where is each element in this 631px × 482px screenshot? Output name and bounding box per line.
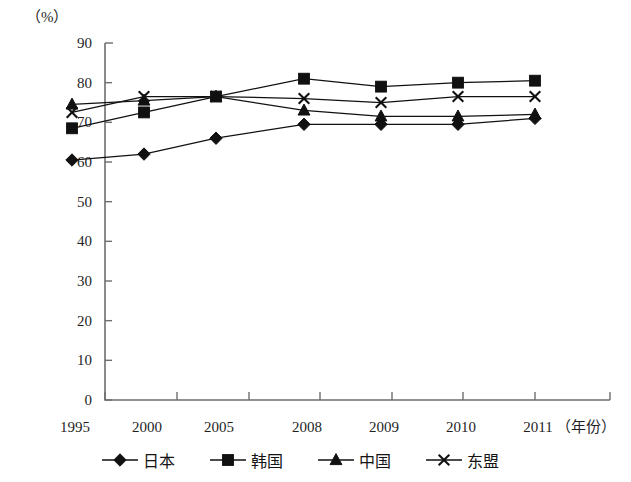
series-2 xyxy=(66,90,541,121)
y-axis-unit-label: （%） xyxy=(26,9,69,25)
legend-item-0[interactable]: 日本 xyxy=(102,453,175,470)
legend-label: 中国 xyxy=(359,453,391,470)
x-tick-label: 2011 xyxy=(523,419,552,435)
line-chart: 0102030405060708090 19952000200520082009… xyxy=(0,0,631,482)
y-tick-label: 60 xyxy=(77,154,92,170)
y-tick-label: 50 xyxy=(77,194,92,210)
series-0 xyxy=(66,112,541,166)
x-tick-group: 1995200020052008200920102011 xyxy=(60,392,553,435)
marker-square xyxy=(453,77,464,88)
series-group xyxy=(66,73,541,166)
chart-page: 0102030405060708090 19952000200520082009… xyxy=(0,0,631,482)
legend-label: 东盟 xyxy=(467,453,499,470)
x-axis-caption: （年份） xyxy=(556,419,616,435)
x-tick-label: 2009 xyxy=(369,419,399,435)
marker-square xyxy=(299,73,310,84)
y-tick-label: 70 xyxy=(77,114,92,130)
x-tick-label: 2000 xyxy=(132,419,162,435)
marker-triangle xyxy=(452,110,464,121)
x-tick-label: 2010 xyxy=(446,419,476,435)
legend-item-3[interactable]: 东盟 xyxy=(426,453,499,470)
marker-diamond xyxy=(298,118,310,130)
marker-square xyxy=(223,455,234,466)
legend-item-2[interactable]: 中国 xyxy=(318,453,391,470)
legend-label: 韩国 xyxy=(251,453,283,470)
y-tick-label: 20 xyxy=(77,313,92,329)
y-tick-label: 80 xyxy=(77,75,92,91)
marker-square xyxy=(67,123,78,134)
axis-label-group: （%）（年份） xyxy=(26,9,616,435)
x-tick-label: 2008 xyxy=(292,419,322,435)
marker-triangle xyxy=(330,454,342,465)
marker-square xyxy=(139,107,150,118)
marker-square xyxy=(376,81,387,92)
marker-diamond xyxy=(210,132,222,144)
chart-legend: 日本韩国中国东盟 xyxy=(102,453,499,470)
marker-square xyxy=(530,75,541,86)
y-tick-group: 0102030405060708090 xyxy=(77,35,112,408)
legend-item-1[interactable]: 韩国 xyxy=(210,453,283,470)
marker-diamond xyxy=(138,148,150,160)
y-tick-label: 10 xyxy=(77,352,92,368)
marker-triangle xyxy=(529,108,541,119)
x-tick-label: 2005 xyxy=(204,419,234,435)
y-tick-label: 0 xyxy=(85,392,93,408)
x-tick-label: 1995 xyxy=(60,419,90,435)
marker-diamond xyxy=(114,454,126,466)
y-tick-label: 90 xyxy=(77,35,92,51)
legend-label: 日本 xyxy=(143,453,175,470)
y-tick-label: 40 xyxy=(77,233,92,249)
y-tick-label: 30 xyxy=(77,273,92,289)
